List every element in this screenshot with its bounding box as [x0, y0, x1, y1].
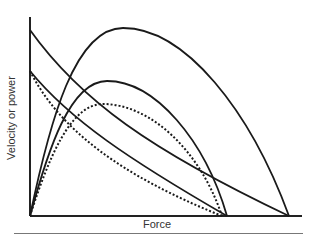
y-axis-label: Velocity or power [5, 58, 17, 178]
bottom-divider [14, 233, 303, 234]
x-axis-label: Force [143, 218, 171, 230]
force-velocity-power-chart [0, 0, 311, 242]
power-curve-dotted [30, 104, 222, 216]
velocity-curve-lower [30, 71, 227, 216]
